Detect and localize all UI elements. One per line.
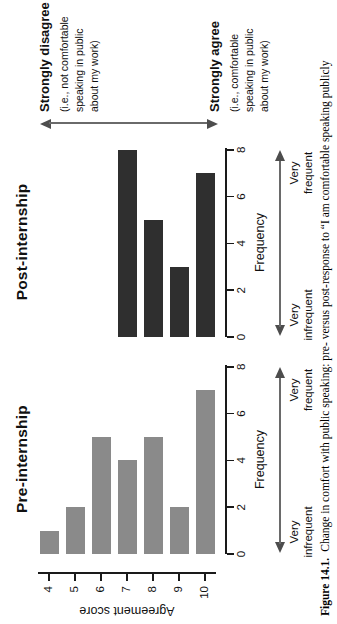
frequency-tick-label: 0 bbox=[235, 328, 247, 346]
score-axis-tick bbox=[74, 574, 76, 582]
frequency-tick-label: 6 bbox=[235, 405, 247, 423]
frequency-tick bbox=[227, 196, 234, 198]
frequency-scale-arrow bbox=[274, 150, 286, 336]
frequency-tick bbox=[227, 506, 234, 508]
frequency-tick bbox=[227, 149, 234, 151]
frequency-axis-label: Frequency bbox=[253, 148, 267, 337]
disagree-detail-line3: about my work) bbox=[87, 0, 102, 112]
score-axis-tick bbox=[204, 574, 206, 582]
frequency-scale-arrow bbox=[274, 367, 286, 553]
agreement-score-axis-label: Agreement score bbox=[47, 602, 207, 618]
frequency-tick bbox=[227, 553, 234, 555]
figure-caption-text: Change in comfort with public speaking: … bbox=[319, 61, 331, 552]
rotated-figure-stage: 45678910 Agreement score Pre-internship … bbox=[0, 0, 337, 624]
very-frequent-line1: Very bbox=[287, 123, 301, 223]
agree-detail-line2: speaking in public bbox=[242, 0, 257, 112]
frequency-tick-label: 6 bbox=[235, 188, 247, 206]
frequency-tick bbox=[227, 289, 234, 291]
frequency-tick bbox=[227, 366, 234, 368]
very-infrequent-line2: infrequent bbox=[301, 265, 315, 365]
post-internship-panel: Post-internship 02468 Frequency Very inf… bbox=[0, 147, 337, 337]
very-infrequent-label: Very infrequent bbox=[287, 482, 315, 582]
arrow-up-head-icon bbox=[40, 119, 51, 129]
frequency-tick bbox=[227, 413, 234, 415]
arrow-right-head-icon bbox=[275, 367, 285, 378]
frequency-tick-label: 4 bbox=[235, 234, 247, 252]
agree-detail-line3: about my work) bbox=[257, 0, 272, 112]
figure-caption: Figure 14.1.Change in comfort with publi… bbox=[319, 61, 331, 616]
figure-number: Figure 14.1. bbox=[319, 558, 331, 616]
figure-page: 45678910 Agreement score Pre-internship … bbox=[0, 0, 337, 624]
arrow-down-head-icon bbox=[207, 119, 218, 129]
arrow-shaft bbox=[49, 122, 209, 124]
pre-internship-panel: Pre-internship 02468 Frequency Very infr… bbox=[0, 364, 337, 554]
very-infrequent-line1: Very bbox=[287, 265, 301, 365]
agreement-scale-arrow bbox=[40, 117, 218, 129]
very-frequent-line2: frequent bbox=[301, 123, 315, 223]
disagree-detail-line1: (i.e., not comfortable bbox=[57, 0, 72, 112]
strongly-agree-label: Strongly agree bbox=[207, 0, 222, 112]
agree-detail-line1: (i.e., comfortable bbox=[227, 0, 242, 112]
arrow-shaft bbox=[279, 159, 281, 327]
very-frequent-label: Very frequent bbox=[287, 123, 315, 223]
very-infrequent-line2: infrequent bbox=[301, 482, 315, 582]
frequency-tick bbox=[227, 243, 234, 245]
frequency-axis-label: Frequency bbox=[253, 365, 267, 554]
frequency-tick-label: 2 bbox=[235, 281, 247, 299]
score-axis-tick bbox=[178, 574, 180, 582]
arrow-shaft bbox=[279, 376, 281, 544]
very-infrequent-label: Very infrequent bbox=[287, 265, 315, 365]
frequency-tick-label: 8 bbox=[235, 358, 247, 376]
frequency-tick-label: 4 bbox=[235, 451, 247, 469]
frequency-tick bbox=[227, 460, 234, 462]
score-axis-tick bbox=[100, 574, 102, 582]
very-infrequent-line1: Very bbox=[287, 482, 301, 582]
arrow-right-head-icon bbox=[275, 150, 285, 161]
score-axis-tick bbox=[126, 574, 128, 582]
strongly-disagree-annotation: Strongly disagree (i.e., not comfortable… bbox=[37, 0, 102, 112]
score-axis-tick bbox=[152, 574, 154, 582]
strongly-agree-annotation: Strongly agree (i.e., comfortable speaki… bbox=[207, 0, 272, 112]
frequency-tick-label: 2 bbox=[235, 498, 247, 516]
strongly-disagree-label: Strongly disagree bbox=[37, 0, 52, 112]
frequency-tick-label: 8 bbox=[235, 141, 247, 159]
frequency-tick-label: 0 bbox=[235, 545, 247, 563]
score-axis-tick bbox=[48, 574, 50, 582]
frequency-tick bbox=[227, 336, 234, 338]
disagree-detail-line2: speaking in public bbox=[72, 0, 87, 112]
